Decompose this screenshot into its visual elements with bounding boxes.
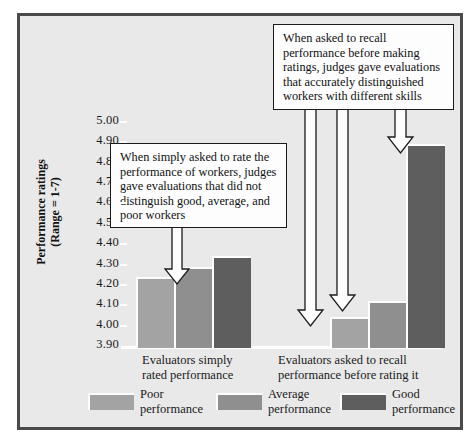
legend-label: Poorperformance — [140, 387, 203, 416]
legend-label-line2: performance — [268, 402, 331, 416]
y-tick-mark — [120, 223, 127, 225]
y-tick-mark — [120, 141, 127, 143]
y-tick-mark — [120, 264, 127, 266]
legend-swatch — [340, 393, 386, 410]
legend-swatch — [216, 393, 262, 410]
y-tick-mark — [120, 325, 127, 327]
y-tick-mark — [120, 243, 127, 245]
legend-label-line2: performance — [392, 402, 455, 416]
legend-label-line1: Average — [268, 387, 309, 401]
figure-canvas: 5.004.904.804.704.604.504.404.304.204.10… — [0, 0, 475, 443]
legend-label-line2: performance — [140, 402, 203, 416]
legend-label: Averageperformance — [268, 387, 331, 416]
y-tick-mark — [120, 121, 127, 123]
y-tick-mark — [120, 304, 127, 306]
legend-label: Goodperformance — [392, 387, 455, 416]
legend-swatch — [88, 393, 134, 410]
y-tick-mark — [120, 162, 127, 164]
legend-label-line1: Poor — [140, 387, 164, 401]
callout-right: When asked to recall performance before … — [273, 24, 454, 110]
legend-label-line1: Good — [392, 387, 420, 401]
y-tick-mark — [120, 284, 127, 286]
y-tick-mark — [120, 202, 127, 204]
chart-legend: PoorperformanceAverageperformanceGoodper… — [20, 388, 466, 428]
chart-frame: 5.004.904.804.704.604.504.404.304.204.10… — [17, 13, 463, 430]
callout-left: When simply asked to rate the performanc… — [110, 143, 287, 228]
y-tick-mark — [120, 182, 127, 184]
